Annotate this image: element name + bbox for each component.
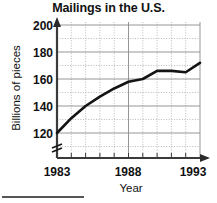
plot-area	[0, 0, 217, 203]
bottom-rule	[2, 196, 84, 198]
x-axis	[57, 154, 210, 162]
chart-figure: Mailings in the U.S. Billions of pieces …	[0, 0, 217, 203]
major-vertical-gridlines	[129, 22, 201, 158]
